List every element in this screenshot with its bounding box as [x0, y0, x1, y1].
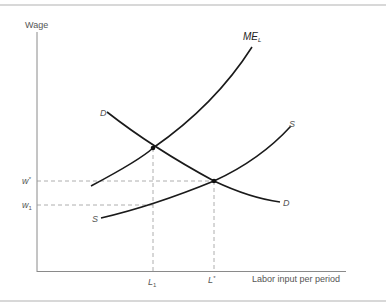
l-star-sup: * — [213, 275, 216, 281]
me-l-label: MEL — [243, 31, 261, 43]
w-star-label: w* — [22, 176, 32, 186]
demand-label-top: D — [100, 108, 107, 118]
w1-sub: 1 — [29, 205, 33, 211]
supply-curve — [101, 126, 291, 218]
me-l-curve — [91, 47, 252, 186]
l1-label: L1 — [148, 277, 157, 288]
me-l-label-main: ME — [243, 31, 258, 42]
intersection-mel-d — [151, 146, 156, 151]
supply-label-top: S — [289, 119, 295, 129]
x-axis-label: Labor input per period — [252, 274, 340, 284]
y-axis-label: Wage — [25, 20, 48, 30]
intersection-d-s — [212, 179, 217, 184]
monopsony-diagram: Wage Labor input per period MEL D D S S … — [0, 0, 386, 305]
supply-label-bottom: S — [92, 214, 98, 224]
l-star-label: L* — [208, 275, 216, 285]
w1-label: w1 — [22, 200, 33, 211]
demand-label-bottom: D — [283, 198, 290, 208]
l1-sub: 1 — [153, 282, 157, 288]
w-star-sup: * — [29, 176, 32, 182]
me-l-label-sub: L — [258, 37, 261, 43]
